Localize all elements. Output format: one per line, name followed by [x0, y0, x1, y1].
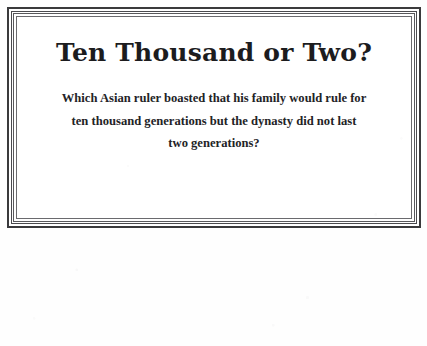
- question-line: ten thousand generations but the dynasty…: [47, 110, 381, 133]
- question-line: Which Asian ruler boasted that his famil…: [47, 87, 381, 110]
- card-question-text: Which Asian ruler boasted that his famil…: [47, 87, 381, 155]
- card-frame-border: Ten Thousand or Two? Which Asian ruler b…: [7, 7, 421, 228]
- card-title: Ten Thousand or Two?: [17, 39, 411, 67]
- scanned-page: Ten Thousand or Two? Which Asian ruler b…: [0, 0, 427, 346]
- question-line: two generations?: [47, 132, 381, 155]
- blank-page-margin: [0, 228, 427, 346]
- card-content-area: Ten Thousand or Two? Which Asian ruler b…: [17, 17, 411, 218]
